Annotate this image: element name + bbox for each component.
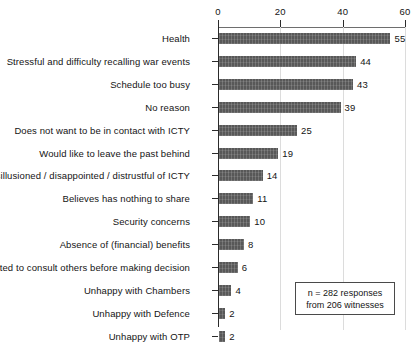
bar (219, 102, 341, 113)
bar-row: Unhappy with OTP2 (0, 325, 415, 343)
category-tick-mark (212, 267, 218, 268)
bar-value-label: 2 (229, 325, 234, 343)
bar-value-label: 2 (229, 302, 234, 325)
category-label: No reason (145, 96, 197, 119)
bar (219, 148, 278, 159)
x-tick-mark (218, 20, 219, 27)
bar-row: Health55 (0, 27, 415, 50)
bar-row: Schedule too busy43 (0, 73, 415, 96)
category-label: Health (162, 27, 197, 50)
bar-value-label: 25 (301, 119, 312, 142)
x-tick-label: 40 (337, 6, 348, 17)
bar-row: No reason39 (0, 96, 415, 119)
sample-size-note-line-2: from 206 witnesses (306, 299, 384, 311)
bar (219, 262, 238, 273)
bar (219, 193, 253, 204)
bar-value-label: 4 (235, 279, 240, 302)
category-label: Would like to leave the past behind (39, 142, 197, 165)
category-tick-mark (212, 175, 218, 176)
bar (219, 285, 231, 296)
category-tick-mark (212, 38, 218, 39)
bar (219, 216, 250, 227)
bar (219, 125, 297, 136)
bar-value-label: 14 (267, 164, 278, 187)
bar-value-label: 44 (360, 50, 371, 73)
bar (219, 308, 225, 319)
category-tick-mark (212, 61, 218, 62)
category-tick-mark (212, 84, 218, 85)
category-label: Stressful and difficulty recalling war e… (7, 50, 197, 73)
category-tick-mark (212, 290, 218, 291)
bar-row: Absence of (financial) benefits8 (0, 233, 415, 256)
x-tick-mark (280, 20, 281, 27)
bar-row: Would like to leave the past behind19 (0, 142, 415, 165)
category-label: Unhappy with Defence (92, 302, 197, 325)
category-tick-mark (212, 153, 218, 154)
bar-value-label: 6 (242, 256, 247, 279)
bar (219, 331, 225, 342)
category-tick-mark (212, 244, 218, 245)
category-tick-mark (212, 336, 218, 337)
bar-row: Wanted to consult others before making d… (0, 256, 415, 279)
category-tick-mark (212, 313, 218, 314)
bar-row: Disillusioned / disappointed / distrustf… (0, 164, 415, 187)
bar-value-label: 11 (257, 187, 267, 210)
category-label: Wanted to consult others before making d… (0, 256, 197, 279)
bar (219, 79, 353, 90)
category-label: Schedule too busy (110, 73, 197, 96)
category-label: Absence of (financial) benefits (60, 233, 197, 256)
category-tick-mark (212, 130, 218, 131)
category-label: Believes has nothing to share (62, 187, 197, 210)
bar-value-label: 8 (248, 233, 253, 256)
bar (219, 33, 390, 44)
category-label: Unhappy with Chambers (84, 279, 197, 302)
bar-value-label: 10 (254, 210, 265, 233)
x-tick-mark (405, 20, 406, 27)
bar (219, 170, 263, 181)
category-label: Unhappy with OTP (109, 325, 197, 343)
bar-row: Believes has nothing to share11 (0, 187, 415, 210)
category-tick-mark (212, 107, 218, 108)
bar-value-label: 55 (394, 27, 405, 50)
x-tick-mark (343, 20, 344, 27)
x-tick-label: 0 (215, 6, 220, 17)
bar-value-label: 19 (282, 142, 293, 165)
x-tick-label: 60 (400, 6, 411, 17)
horizontal-bar-chart: 0204060 Health55Stressful and difficulty… (0, 0, 415, 343)
category-tick-mark (212, 221, 218, 222)
bar-value-label: 43 (357, 73, 368, 96)
category-tick-mark (212, 198, 218, 199)
sample-size-note: n = 282 responses from 206 witnesses (295, 282, 395, 315)
category-label: Security concerns (113, 210, 197, 233)
bar-row: Stressful and difficulty recalling war e… (0, 50, 415, 73)
sample-size-note-line-1: n = 282 responses (308, 287, 382, 299)
bar (219, 239, 244, 250)
bar-row: Does not want to be in contact with ICTY… (0, 119, 415, 142)
bar (219, 56, 356, 67)
category-label: Disillusioned / disappointed / distrustf… (0, 164, 197, 187)
category-label: Does not want to be in contact with ICTY (14, 119, 197, 142)
bar-value-label: 39 (345, 96, 356, 119)
bar-row: Security concerns10 (0, 210, 415, 233)
x-tick-label: 20 (275, 6, 286, 17)
